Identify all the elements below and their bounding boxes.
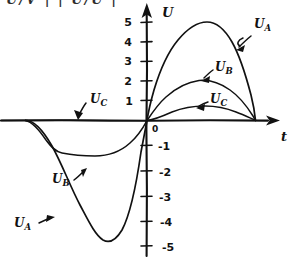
- handdrawn-chart-sketch: 5 4 3 2 1 -1 -2 -3 -4 -5 0 U t UA: [0, 0, 297, 258]
- y-tick-label-1: 1: [125, 95, 133, 108]
- y-tick-label-minus-4: -4: [160, 216, 173, 229]
- annotation-uc-right-label: UC: [210, 92, 227, 108]
- y-tick-labels-group: 5 4 3 2 1 -1 -2 -3 -4 -5 0: [124, 16, 174, 254]
- y-tick-label-2: 2: [124, 75, 132, 88]
- annotation-ub-right-arrow: [204, 70, 213, 78]
- cropped-header-region: U/V | | U/U |: [0, 0, 297, 11]
- annotation-uc-left: UC: [74, 92, 107, 120]
- y-tick-label-minus-3: -3: [159, 191, 171, 204]
- y-tick-label-minus-1: -1: [158, 140, 170, 153]
- cropped-header-text: U/V | | U/U |: [6, 0, 118, 7]
- y-tick-label-minus-5: -5: [162, 241, 174, 254]
- annotation-ub-right-label: UB: [215, 60, 233, 76]
- annotation-ua-left: UA: [14, 215, 55, 232]
- annotation-ua-left-arrowhead: [46, 215, 55, 222]
- y-tick-label-3: 3: [124, 55, 132, 68]
- curve-u-b: [26, 80, 256, 156]
- annotation-ub-left-arrowhead: [81, 168, 87, 177]
- annotation-uc-left-label: UC: [90, 92, 107, 108]
- origin-label: 0: [152, 124, 158, 134]
- annotation-ua-left-label: UA: [14, 216, 31, 232]
- annotation-ua-right: UA: [236, 17, 271, 52]
- y-tick-5: [141, 22, 152, 23]
- annotation-ub-left-label: UB: [52, 172, 70, 188]
- curve-u-c: [2, 106, 256, 121]
- y-axis-line: [146, 14, 147, 256]
- y-tick-label-5: 5: [124, 16, 132, 29]
- x-axis-label: t: [281, 129, 287, 144]
- annotation-ub-left: UB: [52, 168, 87, 188]
- annotation-ub-right: UB: [201, 60, 233, 83]
- chart-svg: 5 4 3 2 1 -1 -2 -3 -4 -5 0 U t UA: [0, 0, 297, 258]
- y-tick-label-minus-2: -2: [159, 166, 171, 179]
- annotation-ua-right-arrow: [239, 36, 251, 47]
- y-tick-label-4: 4: [124, 36, 132, 49]
- annotation-ua-right-label: UA: [254, 17, 271, 33]
